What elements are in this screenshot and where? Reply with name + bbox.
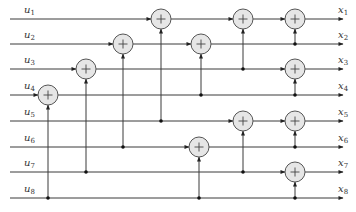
output-label-x4: x4 — [338, 80, 349, 93]
adder-node — [191, 34, 211, 54]
output-label-x5: x5 — [338, 106, 348, 119]
input-label-u5: u5 — [24, 106, 35, 119]
output-label-x7: x7 — [338, 157, 348, 170]
output-label-x3: x3 — [338, 54, 348, 67]
adder-node — [285, 59, 305, 79]
junction-dot — [293, 42, 297, 46]
junction-dot — [293, 145, 297, 149]
adder-node — [113, 34, 133, 54]
output-label-x8: x8 — [338, 183, 348, 196]
output-label-x1: x1 — [338, 4, 348, 17]
input-label-u6: u6 — [24, 132, 35, 145]
input-label-u7: u7 — [24, 157, 35, 170]
junction-dot — [46, 196, 50, 200]
junction-dot — [199, 93, 203, 97]
output-label-x2: x2 — [338, 29, 348, 42]
junction-dot — [293, 196, 297, 200]
junction-dot — [197, 196, 201, 200]
junction-dot — [293, 93, 297, 97]
input-label-u1: u1 — [24, 4, 35, 17]
input-label-u4: u4 — [24, 80, 35, 93]
adder-node — [233, 9, 253, 29]
junction-dot — [241, 67, 245, 71]
adder-node — [285, 9, 305, 29]
adder-node — [285, 111, 305, 131]
vertical-connections — [46, 29, 297, 200]
junction-dot — [84, 170, 88, 174]
adder-node — [189, 137, 209, 157]
output-label-x6: x6 — [338, 132, 349, 145]
adder-node — [38, 85, 58, 105]
adder-node — [233, 111, 253, 131]
junction-dot — [241, 170, 245, 174]
input-label-u3: u3 — [24, 54, 35, 67]
adder-network-diagram: u1x1u2x2u3x3u4x4u5x5u6x6u7x7u8x8 — [0, 0, 356, 212]
adder-node — [76, 59, 96, 79]
adder-node — [285, 162, 305, 182]
adder-node — [151, 9, 171, 29]
input-label-u8: u8 — [24, 183, 35, 196]
junction-dot — [159, 119, 163, 123]
input-label-u2: u2 — [24, 29, 35, 42]
junction-dot — [121, 145, 125, 149]
